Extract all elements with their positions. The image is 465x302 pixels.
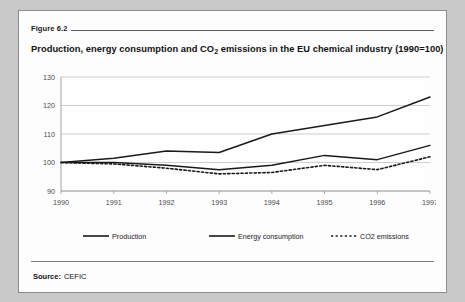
y-axis-tick-label: 100 <box>43 158 55 167</box>
figure-card: Figure 6.2 Production, energy consumptio… <box>18 10 447 293</box>
source-value: CEFIC <box>64 272 87 281</box>
y-axis-tick-label: 90 <box>47 187 55 196</box>
title-text-part1: Production, energy consumption and CO <box>31 44 214 54</box>
legend-item-label: CO2 emissions <box>360 232 409 241</box>
source-note: Source:CEFIC <box>33 272 86 281</box>
title-text-part2: emissions in the EU chemical industry (1… <box>218 44 443 54</box>
source-label: Source: <box>33 272 61 281</box>
legend-item-label: Energy consumption <box>238 232 304 241</box>
line-chart: 9010011012013019901991199219931994199519… <box>31 67 436 217</box>
x-axis-tick-label: 1990 <box>53 198 69 207</box>
x-axis-tick-label: 1996 <box>369 198 385 207</box>
figure-number-label: Figure 6.2 <box>31 24 67 33</box>
chart-legend: ProductionEnergy consumptionCO2 emission… <box>31 224 436 246</box>
figure-header: Figure 6.2 <box>31 22 434 34</box>
x-axis-tick-label: 1993 <box>211 198 227 207</box>
legend-item-label: Production <box>112 232 146 241</box>
y-axis-tick-label: 130 <box>43 73 55 82</box>
page-title: Production, energy consumption and CO2 e… <box>31 44 434 54</box>
title-subscript: 2 <box>214 48 218 55</box>
x-axis-tick-label: 1994 <box>264 198 280 207</box>
chart-plot-area: 9010011012013019901991199219931994199519… <box>31 67 436 217</box>
figure-header-rule <box>71 30 434 31</box>
x-axis-tick-label: 1995 <box>317 198 333 207</box>
x-axis-tick-label: 1991 <box>106 198 122 207</box>
y-axis-tick-label: 120 <box>43 101 55 110</box>
x-axis-tick-label: 1992 <box>158 198 174 207</box>
source-divider <box>31 261 434 262</box>
legend-graphic: ProductionEnergy consumptionCO2 emission… <box>31 224 436 246</box>
y-axis-tick-label: 110 <box>44 130 55 139</box>
x-axis-tick-label: 1997 <box>422 198 436 207</box>
